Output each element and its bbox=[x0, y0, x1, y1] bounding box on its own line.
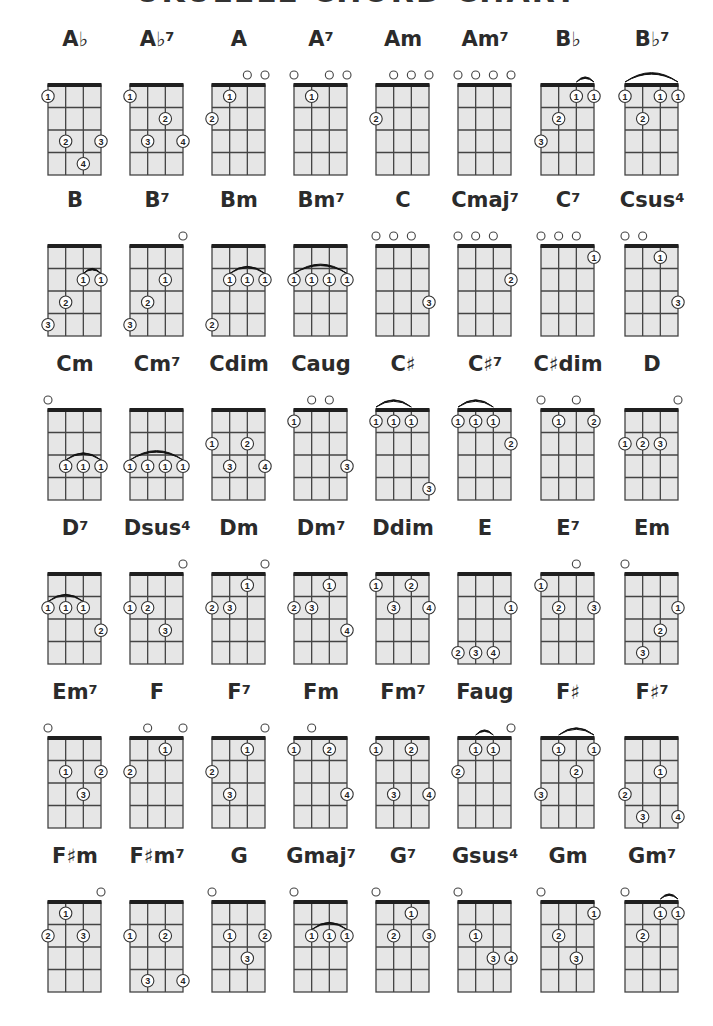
chord-root: C bbox=[468, 352, 483, 376]
barre-arc-icon bbox=[458, 400, 493, 407]
sharp-icon: ♯ bbox=[483, 352, 493, 376]
finger-number: 4 bbox=[180, 137, 185, 147]
chord-root: Gmaj bbox=[286, 844, 347, 868]
chord-root: Csus bbox=[620, 188, 675, 212]
fretboard-diagram: 111 bbox=[280, 874, 361, 1002]
finger-number: 3 bbox=[675, 298, 680, 308]
finger-number: 1 bbox=[309, 92, 314, 102]
finger-number: 1 bbox=[591, 745, 596, 755]
fretboard-diagram: 123 bbox=[611, 382, 692, 510]
fretboard-diagram: 12 bbox=[527, 382, 608, 510]
finger-number: 1 bbox=[591, 92, 596, 102]
finger-number: 1 bbox=[45, 603, 50, 613]
finger-number: 1 bbox=[291, 275, 296, 285]
open-string-icon bbox=[308, 724, 316, 732]
finger-number: 1 bbox=[245, 275, 250, 285]
chord-root: Gm bbox=[628, 844, 667, 868]
finger-number: 1 bbox=[45, 92, 50, 102]
fretboard-diagram: 1112 bbox=[34, 546, 115, 674]
open-string-icon bbox=[407, 71, 415, 79]
chord-a: A12 bbox=[198, 27, 280, 187]
chord-name: Bm7 bbox=[280, 188, 362, 212]
open-string-icon bbox=[390, 71, 398, 79]
fretboard-diagram: 123 bbox=[198, 710, 279, 838]
chord-extension: 7 bbox=[510, 190, 519, 205]
finger-number: 4 bbox=[426, 790, 431, 800]
open-string-icon bbox=[621, 888, 629, 896]
chord-f-sharp: F♯1123 bbox=[527, 680, 609, 840]
fretboard-diagram: 1234 bbox=[198, 382, 279, 510]
finger-number: 1 bbox=[163, 462, 168, 472]
finger-number: 1 bbox=[373, 581, 378, 591]
chord-name: F♯ bbox=[527, 680, 609, 704]
chord-root: F bbox=[150, 680, 164, 704]
finger-number: 1 bbox=[262, 275, 267, 285]
chord-d: D123 bbox=[611, 352, 693, 512]
fretboard-diagram: 2 bbox=[362, 57, 443, 185]
chord-root: B bbox=[144, 188, 160, 212]
fretboard-diagram: 1234 bbox=[444, 546, 525, 674]
chord-root: Cdim bbox=[209, 352, 269, 376]
chord-name: Fm7 bbox=[362, 680, 444, 704]
open-string-icon bbox=[44, 396, 52, 404]
chord-name: D7 bbox=[34, 516, 116, 540]
finger-number: 4 bbox=[344, 626, 349, 636]
finger-number: 2 bbox=[209, 114, 214, 124]
fretboard-diagram: 1234 bbox=[611, 710, 692, 838]
finger-number: 3 bbox=[227, 462, 232, 472]
finger-number: 2 bbox=[262, 931, 267, 941]
finger-number: 2 bbox=[556, 603, 561, 613]
open-string-icon bbox=[261, 71, 269, 79]
nut bbox=[625, 244, 679, 248]
finger-number: 1 bbox=[658, 767, 663, 777]
chord-name: C bbox=[362, 188, 444, 212]
chord-root: Cm bbox=[56, 352, 93, 376]
nut bbox=[541, 736, 595, 740]
chord-g7: G7123 bbox=[362, 844, 444, 1004]
fretboard-diagram: 1112 bbox=[611, 57, 692, 185]
nut bbox=[48, 736, 102, 740]
finger-number: 1 bbox=[145, 462, 150, 472]
chord-suffix: m bbox=[154, 844, 176, 868]
open-string-icon bbox=[325, 71, 333, 79]
finger-number: 2 bbox=[409, 745, 414, 755]
nut bbox=[625, 83, 679, 87]
chord-extension: 7 bbox=[407, 846, 416, 861]
fretboard-diagram: 123 bbox=[198, 546, 279, 674]
finger-number: 1 bbox=[327, 275, 332, 285]
finger-number: 3 bbox=[426, 298, 431, 308]
fretboard-diagram: 1112 bbox=[198, 218, 279, 346]
chord-name: B♭7 bbox=[611, 27, 693, 51]
finger-number: 2 bbox=[291, 603, 296, 613]
chord-c: C3 bbox=[362, 188, 444, 348]
finger-number: 2 bbox=[98, 767, 103, 777]
chord-c-sharpdim: C♯dim12 bbox=[527, 352, 609, 512]
finger-number: 1 bbox=[227, 92, 232, 102]
finger-number: 1 bbox=[98, 462, 103, 472]
chord-root: Faug bbox=[456, 680, 513, 704]
chord-b7: B7123 bbox=[116, 188, 198, 348]
nut bbox=[541, 900, 595, 904]
chord-root: A bbox=[140, 27, 156, 51]
finger-number: 3 bbox=[538, 137, 543, 147]
chord-am7: Am7 bbox=[444, 27, 526, 187]
finger-number: 1 bbox=[81, 275, 86, 285]
nut bbox=[212, 408, 266, 412]
fretboard-diagram: 111 bbox=[34, 382, 115, 510]
chord-ddim: Ddim1234 bbox=[362, 516, 444, 676]
finger-number: 2 bbox=[591, 417, 596, 427]
fretboard-diagram: 123 bbox=[527, 874, 608, 1002]
chord-extension: 7 bbox=[242, 682, 251, 697]
fretboard-diagram: 123 bbox=[34, 710, 115, 838]
open-string-icon bbox=[621, 560, 629, 568]
chord-a7: A71 bbox=[280, 27, 362, 187]
nut bbox=[376, 83, 430, 87]
chord-root: A bbox=[62, 27, 78, 51]
nut bbox=[458, 408, 512, 412]
nut bbox=[212, 244, 266, 248]
nut bbox=[541, 83, 595, 87]
finger-number: 1 bbox=[163, 275, 168, 285]
barre-arc-icon bbox=[625, 73, 678, 82]
fretboard-diagram: 123 bbox=[362, 874, 443, 1002]
nut bbox=[294, 83, 348, 87]
